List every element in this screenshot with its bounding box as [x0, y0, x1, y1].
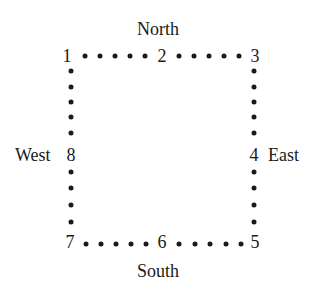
dot	[143, 54, 148, 59]
dot	[252, 85, 257, 90]
compass-square-diagram: North South West East 1 2 3 4 5 6 7 8	[0, 0, 317, 294]
dot	[144, 242, 149, 247]
dot	[252, 115, 257, 120]
dot	[239, 242, 244, 247]
dot	[84, 242, 89, 247]
dot	[128, 54, 133, 59]
point-4: 4	[250, 146, 259, 164]
dot	[69, 115, 74, 120]
dot	[113, 54, 118, 59]
dot	[222, 54, 227, 59]
dot	[69, 220, 74, 225]
dot	[69, 100, 74, 105]
label-south: South	[137, 262, 179, 280]
point-1: 1	[63, 47, 72, 65]
point-7: 7	[66, 233, 75, 251]
dot	[69, 203, 74, 208]
dot	[208, 242, 213, 247]
dot	[207, 54, 212, 59]
dot	[177, 54, 182, 59]
dot	[252, 170, 257, 175]
dot	[129, 242, 134, 247]
dot	[192, 54, 197, 59]
point-3: 3	[251, 47, 260, 65]
dot	[69, 186, 74, 191]
label-west: West	[15, 146, 51, 164]
dot	[99, 242, 104, 247]
dot	[69, 131, 74, 136]
dot	[252, 69, 257, 74]
dot	[177, 242, 182, 247]
dot	[69, 69, 74, 74]
dot	[114, 242, 119, 247]
dot	[252, 220, 257, 225]
dot	[83, 54, 88, 59]
dot	[98, 54, 103, 59]
dot	[224, 242, 229, 247]
dot	[252, 203, 257, 208]
dot	[193, 242, 198, 247]
label-north: North	[137, 20, 179, 38]
dot	[69, 85, 74, 90]
dot	[252, 186, 257, 191]
point-8: 8	[67, 146, 76, 164]
dot	[237, 54, 242, 59]
point-5: 5	[251, 233, 260, 251]
dot	[252, 131, 257, 136]
dot	[69, 170, 74, 175]
label-east: East	[268, 146, 299, 164]
point-6: 6	[158, 233, 167, 251]
dot	[252, 100, 257, 105]
point-2: 2	[158, 47, 167, 65]
